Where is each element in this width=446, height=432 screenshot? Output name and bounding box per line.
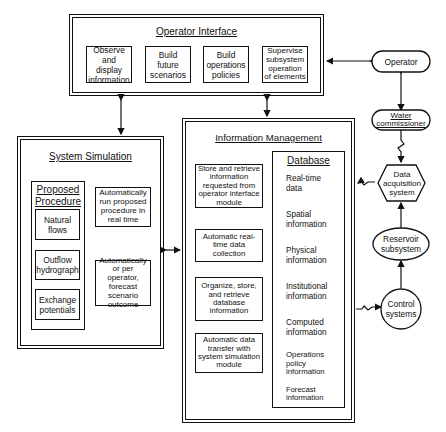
store-physical: Physical information [280, 240, 334, 272]
ss-run-proposed: Automatically run proposed procedure in … [95, 187, 151, 227]
pp-natural-flows: Natural flows [35, 209, 80, 240]
reservoir-label: Reservoir subsystem [378, 230, 424, 258]
im-realtime-collection: Automatic real-time data collection [195, 229, 263, 262]
store-forecast: Forecast information [280, 384, 334, 404]
operator-interface-title: Operator Interface [72, 26, 321, 37]
store-computed: Computed information [280, 312, 334, 344]
im-control-link [356, 306, 381, 310]
store-operations-policy: Operations policy information [280, 348, 334, 380]
ss-forecast-scenario: Automatically or per operator, forecast … [95, 260, 151, 306]
database-title: Database [272, 155, 345, 166]
oi-box-policies: Build operations policies [203, 46, 249, 83]
im-organize-store: Organize, store, and retrieve database i… [195, 277, 263, 321]
oi-box-supervise: Supervise subsystem operation of element… [262, 46, 308, 83]
water-daq-link [398, 128, 404, 162]
proposed-label: Proposed [37, 184, 80, 195]
im-store-retrieve: Store and retrieve information requested… [195, 164, 263, 208]
system-simulation-title: System Simulation [20, 151, 161, 162]
store-institutional: Institutional information [280, 276, 334, 308]
store-realtime: Real-time data [280, 168, 334, 200]
control-label: Control systems [383, 292, 419, 326]
daq-im-link [358, 181, 375, 185]
im-data-transfer: Automatic data transfer with system simu… [195, 333, 263, 373]
operator-label: Operator [372, 51, 430, 72]
data-acquisition-label: Data acquisition system [384, 168, 420, 198]
store-spatial: Spatial information [280, 204, 334, 236]
pp-exchange-potentials: Exchange potentials [35, 289, 80, 320]
oi-box-scenarios: Build future scenarios [145, 46, 191, 83]
water-commissioner-label: Water commissioner [372, 110, 430, 130]
oi-box-observe: Observe and display information [86, 46, 132, 83]
proposed-procedure-title: Proposed Procedure [31, 184, 85, 208]
pp-outflow-hydrograph: Outflow hydrograph [35, 250, 80, 280]
procedure-label: Procedure [35, 196, 81, 207]
information-management-title: Information Management [185, 132, 352, 143]
